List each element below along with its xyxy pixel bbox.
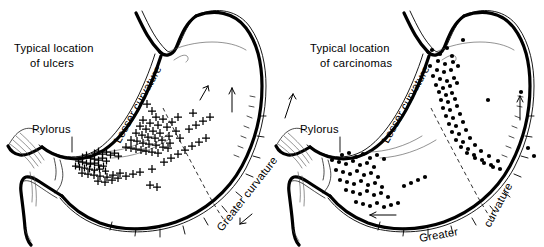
ulcer-cross-marker xyxy=(185,125,193,133)
right-lesser-curvature-label: Lesser curvature xyxy=(379,63,431,144)
carcinoma-dot-marker xyxy=(402,184,406,188)
carcinoma-dot-marker xyxy=(459,145,463,149)
carcinoma-dot-marker xyxy=(351,190,355,194)
carcinoma-dot-marker xyxy=(439,98,443,102)
carcinoma-dot-marker xyxy=(455,104,459,108)
carcinoma-dot-marker xyxy=(491,165,495,169)
carcinoma-dot-marker xyxy=(368,156,372,160)
carcinoma-dot-marker xyxy=(441,106,445,110)
ulcer-cross-marker xyxy=(151,134,159,142)
carcinoma-dot-marker xyxy=(330,158,334,162)
carcinoma-dot-marker xyxy=(361,152,365,156)
carcinoma-dot-marker xyxy=(455,81,459,85)
carcinoma-dot-marker xyxy=(334,168,338,172)
left-ulcer-lesion-markers xyxy=(72,100,214,191)
carcinoma-dot-marker xyxy=(354,155,358,159)
carcinoma-dot-marker xyxy=(519,90,523,94)
carcinoma-dot-marker xyxy=(373,181,377,185)
right-pylorus-duodenum xyxy=(276,128,331,245)
carcinoma-dot-marker xyxy=(443,62,447,66)
carcinoma-dot-marker xyxy=(447,122,451,126)
carcinoma-dot-marker xyxy=(449,68,453,72)
carcinoma-dot-marker xyxy=(482,161,486,165)
carcinoma-dot-marker xyxy=(454,138,458,142)
carcinoma-dot-marker xyxy=(416,178,420,182)
carcinoma-dot-marker xyxy=(461,38,465,42)
ulcer-cross-marker xyxy=(84,170,92,178)
ulcer-cross-marker xyxy=(87,161,94,168)
carcinoma-dot-marker xyxy=(464,128,468,132)
carcinoma-dot-marker xyxy=(361,202,365,206)
ulcer-cross-marker xyxy=(127,144,135,152)
carcinoma-dot-marker xyxy=(341,170,345,174)
carcinoma-dot-marker xyxy=(445,46,449,50)
ulcer-cross-marker xyxy=(206,113,214,121)
ulcer-cross-marker xyxy=(148,107,156,115)
ulcer-cross-marker xyxy=(154,121,162,129)
ulcer-cross-marker xyxy=(137,146,145,154)
ulcer-cross-marker xyxy=(189,109,197,117)
carcinoma-dot-marker xyxy=(338,178,342,182)
carcinoma-dot-marker xyxy=(348,172,352,176)
left-caption-line2: of ulcers xyxy=(30,57,74,69)
ulcer-cross-marker xyxy=(181,146,189,154)
carcinoma-dot-marker xyxy=(358,163,362,167)
ulcer-cross-marker xyxy=(148,165,156,173)
carcinoma-dot-marker xyxy=(366,183,370,187)
ulcer-cross-marker xyxy=(154,149,162,157)
ulcer-cross-marker xyxy=(192,121,200,129)
carcinoma-dot-marker xyxy=(369,171,373,175)
carcinoma-dot-marker xyxy=(496,159,500,163)
carcinoma-dot-marker xyxy=(450,54,454,58)
carcinoma-dot-marker xyxy=(442,70,446,74)
left-caption-line1: Typical location xyxy=(14,42,94,54)
ulcer-cross-marker xyxy=(122,143,130,151)
carcinoma-dot-marker xyxy=(454,124,458,128)
ulcer-cross-marker xyxy=(165,132,173,140)
carcinoma-dot-marker xyxy=(448,84,452,88)
ulcer-cross-marker xyxy=(153,183,161,191)
carcinoma-dot-marker xyxy=(347,151,351,155)
carcinoma-dot-marker xyxy=(473,143,477,147)
ulcer-cross-marker xyxy=(202,134,210,142)
carcinoma-dot-marker xyxy=(372,165,376,169)
carcinoma-dot-marker xyxy=(465,151,469,155)
ulcer-cross-marker xyxy=(167,154,175,162)
carcinoma-dot-marker xyxy=(438,77,442,81)
ulcer-cross-marker xyxy=(188,142,196,150)
ulcer-cross-marker xyxy=(148,148,156,156)
carcinoma-dot-marker xyxy=(457,132,461,136)
ulcer-cross-marker xyxy=(142,147,150,155)
ulcer-cross-marker xyxy=(199,117,207,125)
carcinoma-dot-marker xyxy=(365,161,369,165)
carcinoma-dot-marker xyxy=(434,83,438,87)
ulcer-cross-marker xyxy=(127,136,135,144)
ulcer-cross-marker xyxy=(144,133,152,141)
carcinoma-dot-marker xyxy=(344,162,348,166)
carcinoma-dot-marker xyxy=(450,91,454,95)
ulcer-cross-marker xyxy=(149,127,157,135)
carcinoma-dot-marker xyxy=(526,146,530,150)
right-caption-line2: of carcinomas xyxy=(320,57,392,69)
carcinoma-dot-marker xyxy=(452,76,456,80)
carcinoma-dot-marker xyxy=(372,193,376,197)
carcinoma-dot-marker xyxy=(431,74,435,78)
carcinoma-dot-marker xyxy=(479,149,483,153)
ulcer-cross-marker xyxy=(90,171,98,179)
right-caption-line1: Typical location xyxy=(310,42,390,54)
carcinoma-dot-marker xyxy=(379,191,383,195)
carcinoma-dot-marker xyxy=(445,79,449,83)
carcinoma-dot-marker xyxy=(368,204,372,208)
ulcer-cross-marker xyxy=(160,158,168,166)
ulcer-cross-marker xyxy=(146,119,154,127)
carcinoma-dot-marker xyxy=(396,201,400,205)
ulcer-cross-marker xyxy=(129,170,137,178)
carcinoma-dot-marker xyxy=(340,153,344,157)
right-esophagus xyxy=(404,11,467,55)
carcinoma-dot-marker xyxy=(386,195,390,199)
carcinoma-dot-marker xyxy=(380,185,384,189)
carcinoma-dot-marker xyxy=(453,97,457,101)
ulcer-cross-marker xyxy=(146,181,154,189)
carcinoma-dot-marker xyxy=(352,182,356,186)
carcinoma-dot-marker xyxy=(355,169,359,173)
